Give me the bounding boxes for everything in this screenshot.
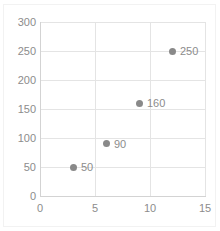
x-axis-tick-labels: 051015 xyxy=(40,203,206,219)
data-point-marker[interactable] xyxy=(70,164,77,171)
y-axis-tick-label: 150 xyxy=(6,104,36,115)
y-axis-tick-label: 0 xyxy=(6,191,36,202)
gridline-vertical xyxy=(205,22,206,196)
gridline-horizontal xyxy=(40,80,205,81)
data-point-label: 90 xyxy=(114,139,126,150)
x-axis-tick-label: 5 xyxy=(80,203,110,214)
data-point-label: 50 xyxy=(81,162,93,173)
y-axis-tick-labels: 050100150200250300 xyxy=(4,22,36,196)
y-axis-tick-label: 250 xyxy=(6,46,36,57)
y-axis-tick-label: 300 xyxy=(6,17,36,28)
x-axis-tick-label: 10 xyxy=(135,203,165,214)
data-point-label: 250 xyxy=(180,46,198,57)
scatter-chart: 5090160250 050100150200250300 051015 xyxy=(0,0,220,231)
x-axis-tick-label: 15 xyxy=(190,203,220,214)
y-axis-tick-label: 200 xyxy=(6,75,36,86)
y-axis-tick-label: 50 xyxy=(6,162,36,173)
plot-area: 5090160250 xyxy=(40,22,205,196)
gridline-vertical xyxy=(95,22,96,196)
gridline-horizontal xyxy=(40,109,205,110)
data-point-marker[interactable] xyxy=(136,100,143,107)
data-point-marker[interactable] xyxy=(103,140,110,147)
gridline-horizontal xyxy=(40,22,205,23)
x-axis-tick-label: 0 xyxy=(25,203,55,214)
data-point-label: 160 xyxy=(147,98,165,109)
x-axis-line xyxy=(40,196,206,197)
y-axis-line xyxy=(40,22,41,197)
data-point-marker[interactable] xyxy=(169,48,176,55)
gridline-horizontal xyxy=(40,167,205,168)
y-axis-tick-label: 100 xyxy=(6,133,36,144)
